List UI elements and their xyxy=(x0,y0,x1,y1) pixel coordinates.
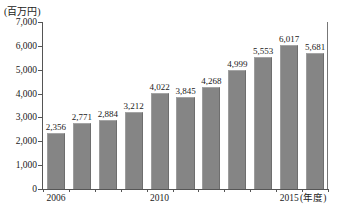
bar[interactable] xyxy=(228,70,246,189)
x-axis-tick xyxy=(224,189,225,192)
y-axis-tick xyxy=(38,189,42,190)
bar[interactable] xyxy=(176,97,194,189)
bar-value-label: 4,999 xyxy=(216,59,258,69)
bar-slot[interactable]: 2,356 xyxy=(47,22,65,189)
x-axis-unit-label: (年度) xyxy=(300,193,326,204)
bar-value-label: 3,845 xyxy=(165,86,207,96)
y-axis-tick xyxy=(38,94,42,95)
y-axis-tick xyxy=(38,22,42,23)
y-axis-tick-label: 7,000 xyxy=(0,17,37,27)
x-axis-tick-label: 2006 xyxy=(36,193,76,204)
bar-slot[interactable]: 4,022 xyxy=(151,22,169,189)
bar-value-label: 5,553 xyxy=(242,46,284,56)
bar[interactable] xyxy=(254,57,272,189)
x-axis-tick xyxy=(198,189,199,192)
bar[interactable] xyxy=(306,53,324,189)
plot-area: 2,3562,7712,8843,2124,0223,8454,2684,999… xyxy=(42,22,328,190)
y-axis-tick xyxy=(38,70,42,71)
x-axis-tick-labels: 200620102015 xyxy=(42,193,332,207)
y-axis-tick xyxy=(38,117,42,118)
y-axis-tick-label: 1,000 xyxy=(0,160,37,170)
x-axis-tick xyxy=(276,189,277,192)
bar-slot[interactable]: 3,845 xyxy=(176,22,194,189)
x-axis-tick xyxy=(250,189,251,192)
y-axis-tick-label: 3,000 xyxy=(0,112,37,122)
x-axis-line xyxy=(42,189,328,190)
y-axis-tick-label: 6,000 xyxy=(0,41,37,51)
y-axis-tick-label: 5,000 xyxy=(0,65,37,75)
bar-value-label: 4,268 xyxy=(190,76,232,86)
bar-value-label: 2,356 xyxy=(35,122,77,132)
y-axis-tick xyxy=(38,165,42,166)
bar[interactable] xyxy=(202,87,220,189)
bar[interactable] xyxy=(99,120,117,189)
x-axis-tick xyxy=(147,189,148,192)
x-axis-tick xyxy=(95,189,96,192)
bar[interactable] xyxy=(280,45,298,189)
x-axis-tick xyxy=(173,189,174,192)
bar-value-label: 5,681 xyxy=(294,42,336,52)
y-axis-tick-label: 4,000 xyxy=(0,89,37,99)
bar[interactable] xyxy=(73,123,91,189)
bar[interactable] xyxy=(125,112,143,189)
x-axis-tick-label: 2010 xyxy=(140,193,180,204)
x-axis-tick xyxy=(121,189,122,192)
x-axis-tick xyxy=(328,189,329,192)
bar-slot[interactable]: 4,268 xyxy=(202,22,220,189)
bar[interactable] xyxy=(151,93,169,189)
x-axis-tick xyxy=(69,189,70,192)
chart-screenshot: (百万円) 01,0002,0003,0004,0005,0006,0007,0… xyxy=(0,0,351,215)
bar-slot[interactable]: 3,212 xyxy=(125,22,143,189)
y-axis-tick-label: 2,000 xyxy=(0,136,37,146)
y-axis-tick-labels: 01,0002,0003,0004,0005,0006,0007,000 xyxy=(0,22,38,190)
bar-slot[interactable]: 5,553 xyxy=(254,22,272,189)
bar-value-label: 3,212 xyxy=(113,101,155,111)
bar-series: 2,3562,7712,8843,2124,0223,8454,2684,999… xyxy=(43,22,328,189)
bar-slot[interactable]: 2,771 xyxy=(73,22,91,189)
x-axis-tick xyxy=(302,189,303,192)
y-axis-tick xyxy=(38,46,42,47)
bar[interactable] xyxy=(47,133,65,189)
bar-slot[interactable]: 5,681 xyxy=(306,22,324,189)
y-axis-tick-label: 0 xyxy=(0,184,37,194)
y-axis-tick xyxy=(38,141,42,142)
x-axis-tick xyxy=(43,189,44,192)
